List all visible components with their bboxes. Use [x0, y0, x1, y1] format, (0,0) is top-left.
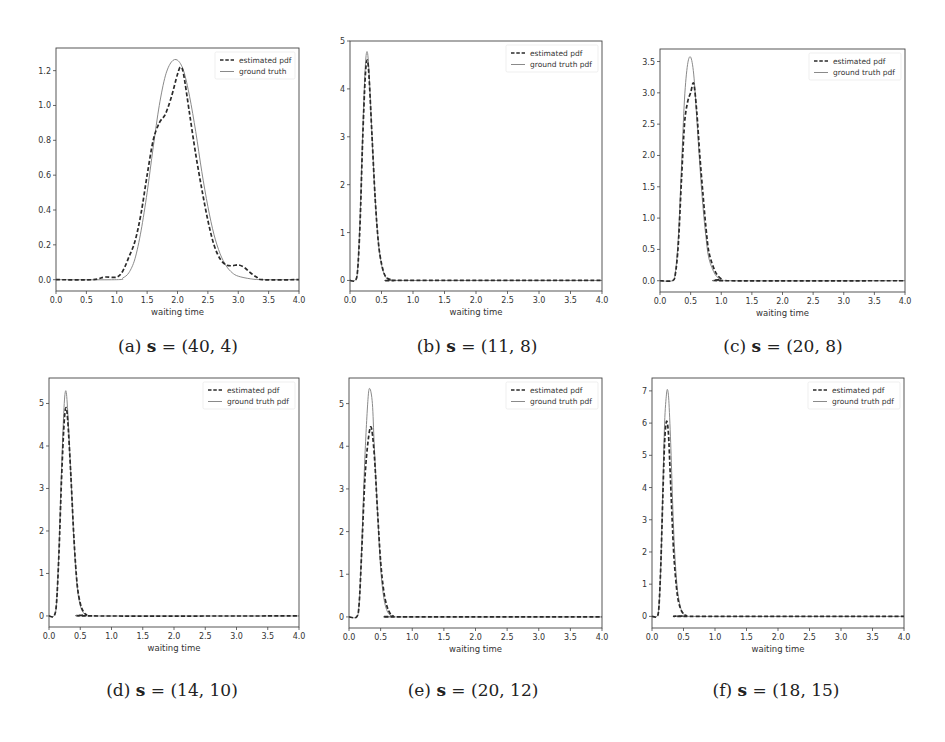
- chart-f: 0.00.51.01.52.02.53.03.54.001234567waiti…: [0, 0, 945, 742]
- caption-label: (e): [408, 680, 437, 700]
- caption-label: (a): [118, 336, 147, 356]
- x-tick-label: 4.0: [898, 633, 911, 642]
- caption-variable: s: [752, 336, 762, 356]
- y-tick-label: 0: [642, 612, 647, 621]
- caption-variable: s: [446, 336, 456, 356]
- plot-area: [652, 389, 904, 617]
- estimated-pdf-line: [652, 421, 904, 617]
- caption-variable: s: [147, 336, 157, 356]
- caption-value: = (20, 12): [446, 680, 538, 700]
- caption-label: (b): [417, 336, 447, 356]
- caption-variable: s: [738, 680, 748, 700]
- caption-b: (b) s = (11, 8): [377, 336, 577, 356]
- x-tick-label: 1.0: [709, 633, 722, 642]
- caption-value: = (40, 4): [156, 336, 238, 356]
- x-tick-label: 0.0: [646, 633, 659, 642]
- caption-e: (e) s = (20, 12): [373, 680, 573, 700]
- x-tick-label: 1.5: [740, 633, 753, 642]
- y-tick-label: 4: [642, 484, 647, 493]
- y-tick-label: 6: [642, 419, 647, 428]
- caption-value: = (11, 8): [456, 336, 538, 356]
- x-tick-label: 3.0: [835, 633, 848, 642]
- x-axis-label: waiting time: [752, 644, 805, 654]
- y-tick-label: 3: [642, 516, 647, 525]
- ground-truth-line: [652, 389, 904, 617]
- x-tick-label: 3.5: [866, 633, 879, 642]
- caption-f: (f) s = (18, 15): [676, 680, 876, 700]
- x-tick-label: 0.5: [677, 633, 690, 642]
- caption-d: (d) s = (14, 10): [72, 680, 272, 700]
- caption-label: (c): [723, 336, 751, 356]
- caption-variable: s: [436, 680, 446, 700]
- legend: estimated pdfground truth pdf: [808, 382, 900, 409]
- caption-value: = (18, 15): [747, 680, 839, 700]
- caption-value: = (20, 8): [761, 336, 843, 356]
- axes-frame: [652, 378, 904, 628]
- legend-ground-truth-label: ground truth pdf: [832, 397, 894, 406]
- caption-c: (c) s = (20, 8): [683, 336, 883, 356]
- y-tick-label: 2: [642, 548, 647, 557]
- x-tick-label: 2.0: [772, 633, 785, 642]
- caption-label: (d): [106, 680, 136, 700]
- caption-a: (a) s = (40, 4): [78, 336, 278, 356]
- y-tick-label: 5: [642, 451, 647, 460]
- x-tick-label: 2.5: [803, 633, 816, 642]
- y-tick-label: 1: [642, 580, 647, 589]
- caption-variable: s: [136, 680, 146, 700]
- y-tick-label: 7: [642, 387, 647, 396]
- legend-estimated-label: estimated pdf: [832, 386, 885, 395]
- caption-label: (f): [713, 680, 738, 700]
- caption-value: = (14, 10): [145, 680, 237, 700]
